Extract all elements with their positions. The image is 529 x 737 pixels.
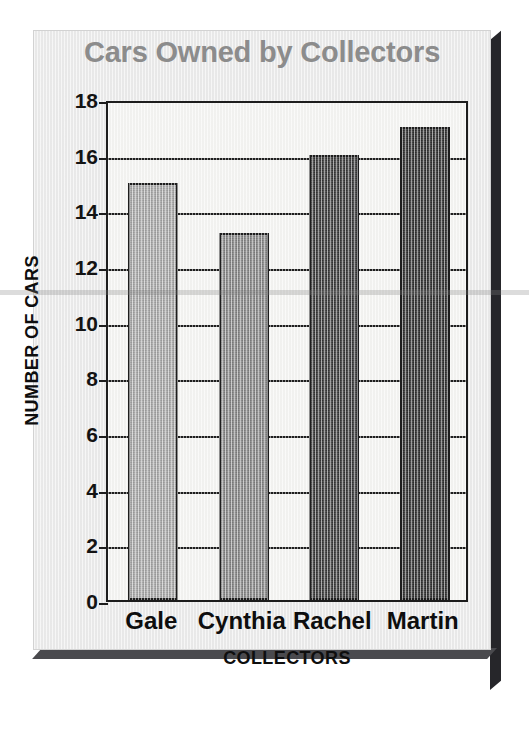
bar-texture bbox=[130, 185, 176, 599]
y-tick-label: 2 bbox=[54, 535, 98, 556]
chart-title: Cars Owned by Collectors bbox=[33, 36, 491, 69]
y-tick-mark bbox=[99, 269, 108, 271]
y-tick-label: 0 bbox=[54, 591, 98, 612]
y-tick-label: 16 bbox=[54, 146, 98, 167]
bar-chart-figure: Cars Owned by Collectors NUMBER OF CARS … bbox=[0, 0, 529, 737]
bar bbox=[128, 183, 178, 601]
y-tick-mark bbox=[99, 325, 108, 327]
x-tick-label: Rachel bbox=[287, 608, 378, 634]
y-tick-label: 8 bbox=[54, 368, 98, 389]
y-axis-tick-labels: 024681012141618 bbox=[52, 101, 98, 602]
bar-texture bbox=[402, 129, 448, 598]
y-tick-label: 12 bbox=[54, 257, 98, 278]
x-tick-label: Cynthia bbox=[197, 608, 288, 634]
plot-area bbox=[106, 101, 468, 602]
y-axis-title: NUMBER OF CARS bbox=[22, 241, 43, 441]
y-tick-mark bbox=[99, 603, 108, 605]
y-tick-mark bbox=[99, 547, 108, 549]
y-tick-mark bbox=[99, 492, 108, 494]
y-tick-mark bbox=[99, 213, 108, 215]
x-axis-title: COLLECTORS bbox=[106, 648, 468, 669]
y-tick-mark bbox=[99, 380, 108, 382]
bar bbox=[219, 233, 269, 600]
x-tick-label: Gale bbox=[106, 608, 197, 634]
bar bbox=[400, 127, 450, 600]
y-tick-mark bbox=[99, 102, 108, 104]
y-tick-label: 18 bbox=[54, 90, 98, 111]
y-tick-label: 4 bbox=[54, 480, 98, 501]
y-tick-label: 6 bbox=[54, 424, 98, 445]
bar-texture bbox=[221, 235, 267, 598]
bar bbox=[309, 155, 359, 600]
y-tick-label: 10 bbox=[54, 313, 98, 334]
bar-texture bbox=[311, 157, 357, 598]
panel-bevel-right bbox=[490, 31, 501, 690]
x-tick-label: Martin bbox=[378, 608, 469, 634]
y-tick-label: 14 bbox=[54, 201, 98, 222]
y-tick-mark bbox=[99, 158, 108, 160]
y-tick-mark bbox=[99, 436, 108, 438]
